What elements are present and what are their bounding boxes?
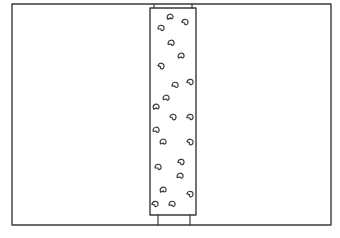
dotted-strip (150, 8, 196, 215)
bottom-connector (158, 215, 190, 225)
sketch-canvas (0, 0, 340, 238)
